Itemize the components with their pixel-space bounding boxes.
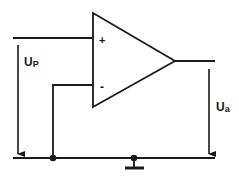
input-voltage-main: U: [24, 55, 33, 69]
opamp-triangle: [93, 13, 175, 107]
output-voltage-subscript: a: [225, 104, 231, 114]
input-voltage-label: UP: [24, 55, 39, 69]
junction-dot-inverting: [50, 155, 57, 162]
ground-symbol-icon: [125, 158, 144, 168]
output-voltage-label: Ua: [216, 100, 231, 114]
output-voltage-main: U: [216, 100, 225, 114]
input-voltage-subscript: P: [33, 59, 39, 69]
opamp-circuit-diagram: + - UP Ua: [0, 0, 239, 179]
inverting-input-wire: [53, 85, 93, 158]
inverting-sign: -: [100, 80, 104, 94]
non-inverting-sign: +: [99, 34, 105, 46]
